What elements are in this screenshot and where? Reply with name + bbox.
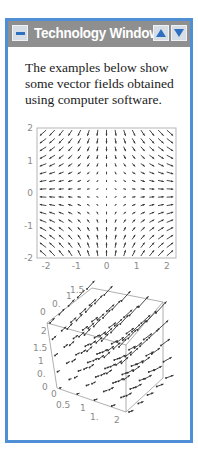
axis-tick-label: 1.5 (33, 343, 47, 353)
axis-tick-label: 1.5 (70, 285, 84, 295)
axis-tick-label: 2 (114, 415, 120, 425)
plot3d-box (47, 288, 163, 412)
axis-tick-label: 1 (38, 356, 44, 366)
axis-tick-label: 2 (41, 326, 47, 336)
axis-tick-label: 0 (42, 382, 48, 392)
axis-tick-label: 0. (37, 369, 46, 379)
axis-tick-label: 0 (40, 307, 46, 317)
axis-tick-label: 1. (90, 412, 99, 422)
axis-tick-label: 1 (80, 403, 86, 413)
axis-tick-label: 0. (52, 299, 61, 309)
vector-field-3d-plot: 00.11.521.510.000.511.2 (0, 0, 198, 461)
axis-tick-label: 0.5 (56, 400, 70, 410)
axis-tick-label: 0 (51, 389, 57, 399)
